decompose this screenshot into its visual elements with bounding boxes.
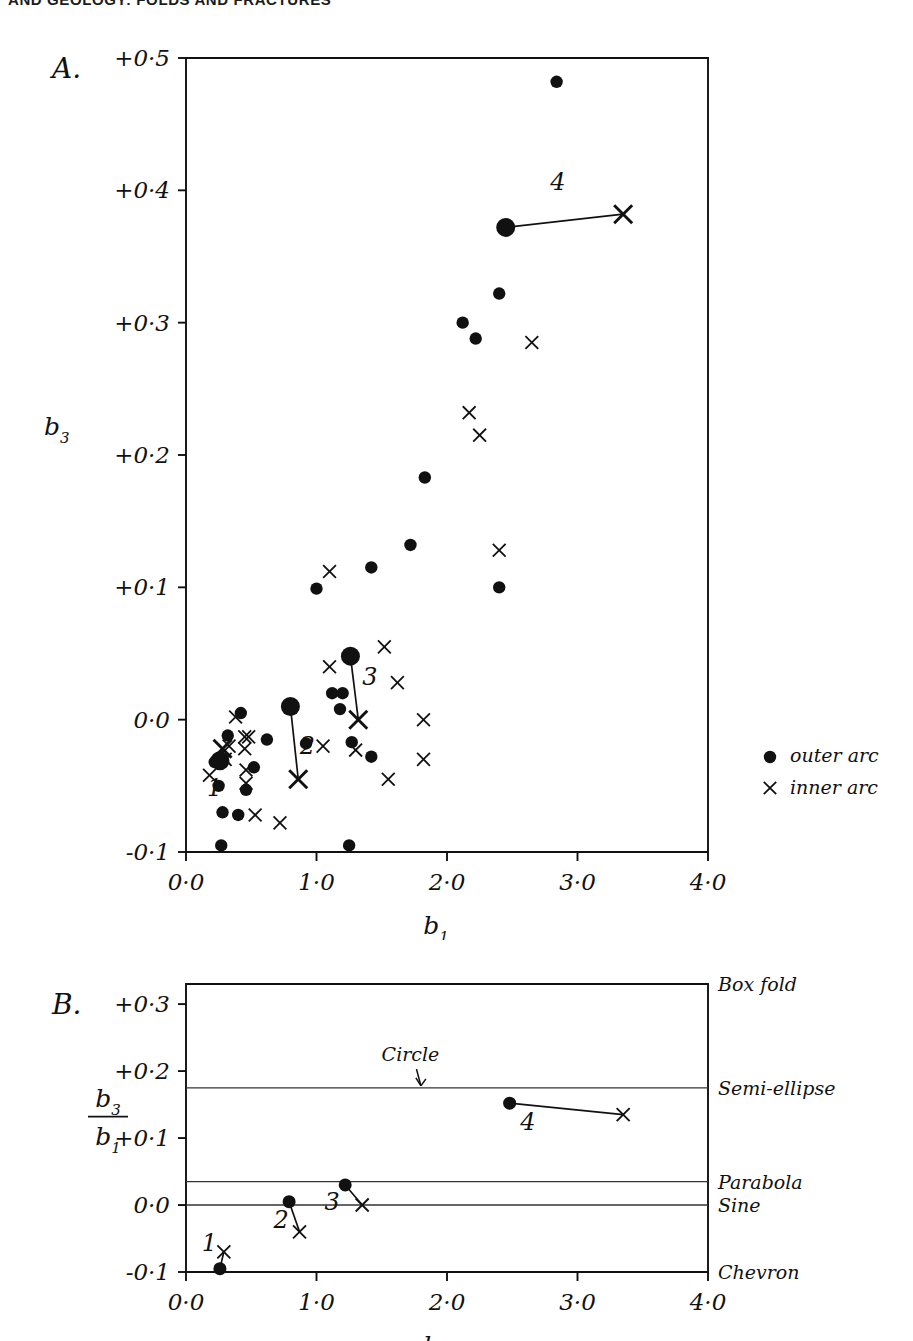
legend-inner-arc-label: inner arc [790, 776, 878, 798]
panel-a-x-axis: 0·01·02·03·04·0 [168, 852, 727, 895]
inner-arc-point [217, 1245, 230, 1258]
outer-arc-point [240, 784, 252, 796]
panel-b-y-tick-label: +0·1 [114, 1125, 170, 1151]
panel-b-y-tick-label: +0·2 [114, 1058, 170, 1084]
panel-b-figure: Box foldSemi-ellipseParabolaSineChevron+… [0, 940, 913, 1341]
panel-a-y-axis: +0·5+0·4+0·3+0·2+0·10·0-0·1 [114, 45, 186, 865]
fold-shape-label: Parabola [717, 1171, 803, 1193]
panel-a-x-tick-label: 3·0 [559, 869, 596, 895]
tie-line-label: 1 [207, 774, 222, 802]
panel-b-y-tick-label: 0·0 [133, 1192, 170, 1218]
outer-arc-point [456, 316, 468, 328]
panel-a-data-points [203, 76, 563, 852]
outer-arc-point [336, 687, 348, 699]
tie-line-label: 3 [325, 1188, 340, 1216]
panel-a-x-tick-label: 4·0 [689, 869, 727, 895]
outer-arc-point [419, 471, 431, 483]
legend-outer-arc-label: outer arc [790, 744, 879, 766]
panel-a-x-tick-label: 2·0 [428, 869, 466, 895]
panel-a-y-axis-title: b3 [44, 412, 70, 447]
panel-b-x-axis-title: b1 [423, 1331, 449, 1341]
tie-line-label: 4 [549, 168, 565, 196]
panel-a-x-tick-label: 1·0 [298, 869, 335, 895]
tie-line-pair: 1 [207, 740, 231, 803]
inner-arc-point [293, 1225, 306, 1238]
inner-arc-point [238, 742, 251, 755]
outer-arc-point [404, 539, 416, 551]
inner-arc-point [317, 740, 330, 753]
inner-arc-point [525, 336, 538, 349]
tie-line-label: 2 [299, 732, 315, 760]
inner-arc-point [323, 660, 336, 673]
figure-page: AND GEOLOGY: FOLDS AND FRACTURES +0·5+0·… [0, 0, 913, 1341]
inner-arc-point [391, 676, 404, 689]
inner-arc-point [382, 773, 395, 786]
panel-a-figure: +0·5+0·4+0·3+0·2+0·10·0-0·10·01·02·03·04… [0, 0, 913, 940]
panel-b-y-tick-label: +0·3 [114, 991, 170, 1017]
panel-b-y-tick-label: -0·1 [126, 1259, 170, 1285]
tie-line-label: 4 [519, 1108, 535, 1136]
panel-a-y-tick-label: +0·1 [114, 574, 170, 600]
outer-arc-point-highlighted [496, 218, 515, 237]
tie-line-pair: 3 [325, 1178, 369, 1216]
panel-a-label: A. [49, 52, 81, 85]
panel-b-reference-lines: Box foldSemi-ellipseParabolaSineChevron [186, 973, 835, 1283]
panel-b-x-axis: 0·01·02·03·04·0 [168, 1272, 727, 1315]
circle-annotation-label: Circle [382, 1043, 440, 1065]
tie-line-label: 1 [202, 1229, 217, 1257]
fold-shape-label: Semi-ellipse [718, 1077, 835, 1099]
outer-arc-point-highlighted [341, 647, 360, 666]
panel-a-y-tick-label: +0·3 [114, 310, 170, 336]
fold-shape-label: Chevron [718, 1261, 800, 1283]
inner-arc-point [463, 406, 476, 419]
outer-arc-point [310, 582, 322, 594]
panel-a-y-tick-label: +0·5 [114, 45, 170, 71]
panel-a-y-tick-label: 0·0 [133, 707, 170, 733]
outer-arc-point [503, 1097, 516, 1110]
tie-line-pair: 2 [273, 1195, 306, 1238]
inner-arc-point [493, 544, 506, 557]
panel-b-x-tick-label: 1·0 [298, 1289, 335, 1315]
outer-arc-point [334, 703, 346, 715]
tie-line-pair: 4 [503, 1097, 630, 1136]
inner-arc-point [378, 640, 391, 653]
outer-arc-point [216, 806, 228, 818]
outer-arc-point [365, 751, 377, 763]
panel-b-label: B. [51, 988, 81, 1021]
panel-a-y-tick-label: -0·1 [126, 839, 170, 865]
panel-a-x-axis-title: b1 [423, 911, 449, 940]
inner-arc-point [249, 809, 262, 822]
fold-shape-label: Sine [718, 1194, 761, 1216]
panel-b-y-axis: +0·3+0·2+0·10·0-0·1 [114, 991, 186, 1285]
legend-inner-arc-marker-icon [764, 782, 776, 794]
inner-arc-point [473, 429, 486, 442]
outer-arc-point [213, 1262, 226, 1275]
inner-arc-point [323, 565, 336, 578]
panel-b-x-tick-label: 2·0 [428, 1289, 466, 1315]
outer-arc-point [339, 1178, 352, 1191]
panel-a-axes [186, 58, 708, 852]
tie-line-label: 2 [273, 1206, 289, 1234]
tie-line-label: 3 [362, 663, 377, 691]
fold-shape-label: Box fold [717, 973, 797, 995]
outer-arc-point [343, 839, 355, 851]
tie-line-pair: 4 [496, 168, 632, 237]
panel-a-tie-lines: 1234 [207, 168, 632, 802]
panel-b-tie-lines: 1234 [202, 1097, 630, 1275]
panel-b-y-axis-title-numerator: b3 [95, 1084, 121, 1119]
outer-arc-point [470, 332, 482, 344]
annotation-arrow-icon [416, 1069, 426, 1086]
outer-arc-point [365, 561, 377, 573]
panel-a-y-tick-label: +0·4 [114, 177, 170, 203]
tie-line-pair: 3 [341, 647, 378, 729]
panel-b-x-tick-label: 4·0 [689, 1289, 727, 1315]
circle-annotation: Circle [382, 1043, 440, 1086]
inner-arc-point [417, 753, 430, 766]
panel-b-x-tick-label: 3·0 [559, 1289, 596, 1315]
outer-arc-point [493, 581, 505, 593]
legend-outer-arc-marker-icon [764, 751, 776, 763]
tie-line-pair: 2 [281, 697, 315, 788]
outer-arc-point-highlighted [281, 697, 300, 716]
panel-a-y-tick-label: +0·2 [114, 442, 170, 468]
inner-arc-point [274, 816, 287, 829]
